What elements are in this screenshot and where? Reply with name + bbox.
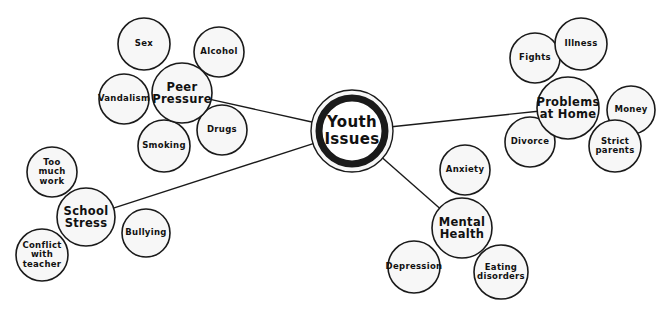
node-circle-conflict-with-teacher[interactable] [16,229,68,281]
node-circle-strict-parents[interactable] [589,120,641,172]
node-circle-illness[interactable] [555,18,607,70]
node-circle-peer-pressure[interactable] [152,63,212,123]
node-circle-sex[interactable] [118,18,170,70]
node-circle-problems-at-home[interactable] [537,77,599,139]
node-circle-depression[interactable] [388,241,440,293]
node-circle-vandalism[interactable] [99,74,149,124]
mind-map-canvas [0,0,667,311]
node-circle-bullying[interactable] [122,209,170,257]
node-circle-smoking[interactable] [138,120,190,172]
mind-map-diagram: SexAlcoholVandalismSmokingDrugsFightsIll… [0,0,667,311]
node-circle-too-much-work[interactable] [27,147,77,197]
node-circle-mental-health[interactable] [432,198,492,258]
node-layer [16,18,655,299]
node-circle-fights[interactable] [510,33,560,83]
node-circle-eating-disorders[interactable] [474,245,528,299]
node-circle-school-stress[interactable] [57,188,115,246]
node-circle-anxiety[interactable] [440,145,490,195]
center-node-thick-ring[interactable] [319,98,385,164]
center-to-mental-health [382,157,440,208]
